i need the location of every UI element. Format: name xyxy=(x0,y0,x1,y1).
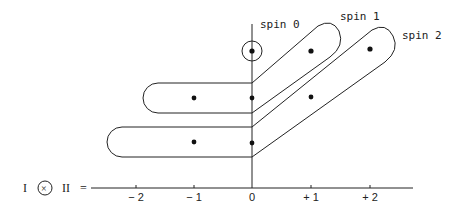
spin-decomposition-diagram: spin 0 spin 1 spin 2 I × II = − 2 − 1 0 … xyxy=(0,0,459,219)
tick-label-minus-2: − 2 xyxy=(128,191,144,203)
spin1-envelope xyxy=(143,23,341,113)
state-dot-m1-top xyxy=(308,48,313,53)
spin0-label: spin 0 xyxy=(260,18,300,31)
state-dot-m-1-mid xyxy=(192,96,197,101)
spin2-label: spin 2 xyxy=(402,29,442,42)
state-dot-m2-top xyxy=(367,46,372,51)
tick-label-0: 0 xyxy=(249,191,255,203)
equation-left: I xyxy=(23,181,27,195)
spin1-label: spin 1 xyxy=(340,10,380,23)
equation-right: II xyxy=(62,181,70,195)
diagram-canvas: spin 0 spin 1 spin 2 I × II = − 2 − 1 0 … xyxy=(0,0,459,219)
state-dot-m-1-low xyxy=(192,140,197,145)
tick-label-plus-2: + 2 xyxy=(362,191,378,203)
tick-label-plus-1: + 1 xyxy=(303,191,319,203)
tick-label-minus-1: − 1 xyxy=(186,191,202,203)
spin2-envelope xyxy=(107,27,395,157)
equation-equals: = xyxy=(80,181,87,195)
state-dot-m0-mid xyxy=(250,96,255,101)
state-dot-m1-mid xyxy=(309,95,314,100)
tensor-product-operator: × xyxy=(41,183,47,194)
state-dot-m0-low xyxy=(250,141,255,146)
state-dot-m0-top xyxy=(249,48,254,53)
